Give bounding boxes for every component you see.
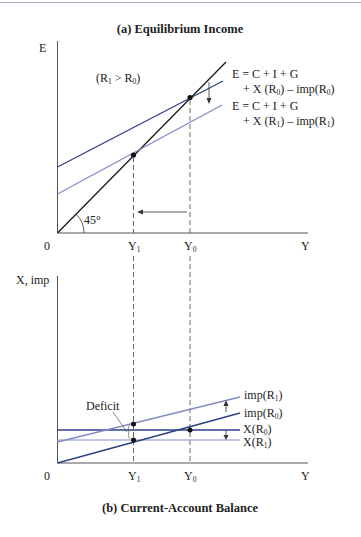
deficit-leader-line xyxy=(113,412,127,432)
label-imp-r0: imp(R0) xyxy=(244,406,282,421)
down-arrowhead-icon xyxy=(224,435,229,440)
panel-b-tick-y1: Y1 xyxy=(128,469,141,484)
panel-a-tick-y1: Y1 xyxy=(128,239,141,254)
deficit-brace-icon xyxy=(128,425,130,439)
imports-point-y1 xyxy=(131,422,136,427)
shift-down-arrowhead-icon xyxy=(207,98,212,104)
panel-b-x-axis-label: Y xyxy=(301,469,310,483)
panel-b-origin-label: 0 xyxy=(44,469,50,483)
panel-a-y-axis-label: E xyxy=(39,41,46,55)
angle-arc-icon xyxy=(76,214,84,233)
panel-a-x-axis-label: Y xyxy=(301,239,310,253)
diagram-canvas: (a) Equilibrium Income E Y 0 45° Y1 Y0 (… xyxy=(0,0,361,537)
panel-a-origin-label: 0 xyxy=(44,239,50,253)
imports-line-r1 xyxy=(58,397,241,442)
panel-a-title: (a) Equilibrium Income xyxy=(117,22,244,36)
deficit-label: Deficit xyxy=(86,399,120,413)
panel-b-tick-y0: Y0 xyxy=(184,469,197,484)
balance-point-y0 xyxy=(188,428,193,433)
equilibrium-point-y0 xyxy=(187,95,192,100)
curve-label-r0-line1: E = C + I + G xyxy=(232,67,299,81)
equilibrium-point-y1 xyxy=(131,152,136,157)
forty-five-degree-line xyxy=(58,62,227,233)
label-x-r1: X(R1) xyxy=(243,435,271,450)
exports-point-y1 xyxy=(131,438,136,443)
panel-b-y-axis-label: X, imp xyxy=(16,273,49,287)
curve-label-r0-line2: + X (R0) – imp(R0) xyxy=(243,82,335,97)
curve-label-r1-line1: E = C + I + G xyxy=(232,99,299,113)
expenditure-line-r1 xyxy=(58,105,223,194)
panel-b-title: (b) Current-Account Balance xyxy=(102,501,258,515)
left-arrowhead-icon xyxy=(137,210,143,215)
curve-label-r1-line2: + X (R1) – imp(R1) xyxy=(243,114,335,129)
expenditure-line-r0 xyxy=(58,81,224,167)
imports-line-r0 xyxy=(58,413,241,463)
condition-label: (R1 > R0) xyxy=(96,71,140,86)
label-imp-r1: imp(R1) xyxy=(244,388,282,403)
panel-a-tick-y0: Y0 xyxy=(184,239,197,254)
angle-label: 45° xyxy=(84,213,101,227)
